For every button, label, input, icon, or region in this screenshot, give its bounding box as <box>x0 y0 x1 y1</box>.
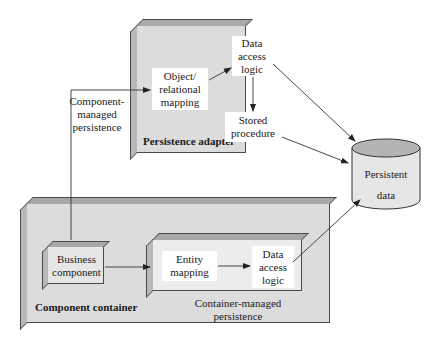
persistent-data-cylinder: Persistent data <box>350 138 422 212</box>
component-managed-persistence-label: Component- managed persistence <box>68 95 126 134</box>
persistence-adapter-title: Persistence adapter <box>143 135 235 148</box>
component-container-title: Component container <box>35 301 137 314</box>
adapter-data-access-logic-label: Data access logic <box>232 37 272 76</box>
entity-mapping-label: Entity mapping <box>162 253 217 279</box>
label-line: Component- <box>68 95 126 108</box>
label-line: managed <box>68 108 126 121</box>
panel-side-edge <box>130 25 137 160</box>
label-line: persistence <box>68 121 126 134</box>
entity-mapping-box: Entity mapping <box>162 251 217 281</box>
container-data-access-logic-label: Data access logic <box>252 248 294 287</box>
box-side-edge <box>146 239 153 298</box>
panel-side-edge <box>20 203 27 330</box>
stored-procedure-label: Stored procedure <box>225 114 281 140</box>
label-line: persistence <box>183 310 293 323</box>
adapter-data-access-logic-box: Data access logic <box>232 36 272 76</box>
stored-procedure-box: Stored procedure <box>225 112 281 142</box>
box-top-edge <box>152 233 309 240</box>
container-managed-persistence-label: Container-managed persistence <box>183 297 293 323</box>
box-top-edge <box>47 241 110 247</box>
panel-top-edge <box>26 197 337 204</box>
persistent-data-line: Persistent <box>350 168 422 181</box>
panel-top-edge <box>136 19 253 26</box>
business-component-label: Business component <box>48 253 105 279</box>
object-relational-mapping-box: Object/ relational mapping <box>152 68 208 110</box>
persistent-data-line: data <box>350 189 422 202</box>
business-component-box: Business component <box>47 246 104 284</box>
object-relational-mapping-label: Object/ relational mapping <box>152 70 208 109</box>
container-data-access-logic-box: Data access logic <box>252 246 294 288</box>
label-line: Container-managed <box>183 297 293 310</box>
